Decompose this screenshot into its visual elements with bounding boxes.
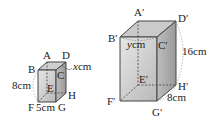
vertex-label-b: B bbox=[28, 63, 35, 75]
vertex-label-e-prime: E′ bbox=[139, 73, 148, 85]
vertex-label-d: D bbox=[62, 49, 70, 61]
vertex-label-d-prime: D′ bbox=[178, 12, 188, 24]
vertex-label-a-prime: A′ bbox=[134, 6, 144, 18]
large-depth-label: 8cm bbox=[167, 91, 186, 103]
vertex-label-f: F bbox=[28, 101, 34, 113]
large-prism: A′ D′ B′ C′ E′ H′ F′ G′ 16cm 8cm ycm bbox=[107, 6, 207, 118]
small-depth-label: xcm bbox=[72, 60, 92, 72]
small-height-label: 8cm bbox=[12, 79, 31, 91]
vertex-label-c-prime: C′ bbox=[158, 39, 168, 51]
small-width-label: 5cm bbox=[36, 101, 55, 113]
vertex-label-g: G bbox=[58, 101, 66, 113]
vertex-label-h: H bbox=[68, 89, 76, 101]
vertex-label-f-prime: F′ bbox=[107, 95, 116, 107]
large-width-label: ycm bbox=[126, 38, 146, 50]
vertex-label-a: A bbox=[43, 49, 51, 61]
vertex-label-c: C bbox=[57, 69, 64, 81]
vertex-label-e: E bbox=[47, 82, 54, 94]
small-prism: A D B C E H F G 8cm 5cm xcm bbox=[12, 49, 92, 113]
large-height-label: 16cm bbox=[182, 45, 207, 57]
similar-prisms-diagram: A D B C E H F G 8cm 5cm xcm A′ D′ B′ C′ … bbox=[0, 0, 216, 122]
vertex-label-b-prime: B′ bbox=[108, 32, 118, 44]
vertex-label-g-prime: G′ bbox=[152, 106, 162, 118]
